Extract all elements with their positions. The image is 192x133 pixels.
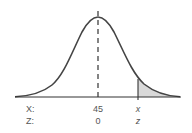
mean-value-label: 45 bbox=[93, 104, 103, 114]
x-row-label: X: bbox=[26, 104, 35, 114]
z-value-label: z bbox=[135, 116, 141, 126]
shaded-tail-region bbox=[138, 79, 180, 97]
z-mean-label: 0 bbox=[95, 116, 100, 126]
z-row-label: Z: bbox=[26, 116, 34, 126]
normal-curve-diagram: X: Z: 45 0 x z bbox=[0, 0, 192, 133]
x-value-label: x bbox=[135, 104, 141, 114]
